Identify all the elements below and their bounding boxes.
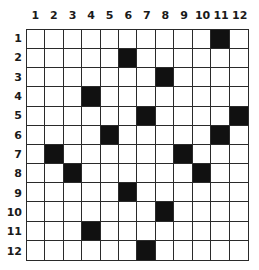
grid-cell[interactable]	[64, 202, 82, 221]
grid-cell[interactable]	[211, 68, 229, 87]
grid-cell[interactable]	[137, 222, 155, 241]
grid-cell[interactable]	[230, 164, 248, 183]
grid-cell[interactable]	[64, 241, 82, 260]
grid-cell[interactable]	[137, 49, 155, 68]
grid-cell-filled[interactable]	[156, 202, 174, 221]
grid-cell[interactable]	[82, 183, 100, 202]
grid-cell[interactable]	[101, 164, 119, 183]
grid-cell[interactable]	[64, 222, 82, 241]
grid-cell[interactable]	[174, 68, 192, 87]
grid-cell-filled[interactable]	[193, 164, 211, 183]
grid-cell-filled[interactable]	[230, 107, 248, 126]
grid-cell[interactable]	[137, 183, 155, 202]
grid-cell[interactable]	[174, 164, 192, 183]
grid-cell[interactable]	[27, 49, 45, 68]
grid-cell[interactable]	[82, 202, 100, 221]
grid-cell[interactable]	[27, 241, 45, 260]
grid-cell[interactable]	[45, 222, 63, 241]
grid-cell[interactable]	[27, 107, 45, 126]
grid-cell[interactable]	[156, 183, 174, 202]
grid-cell[interactable]	[156, 30, 174, 49]
grid-cell[interactable]	[193, 202, 211, 221]
grid-cell[interactable]	[193, 241, 211, 260]
grid-cell[interactable]	[156, 87, 174, 106]
grid-cell[interactable]	[45, 30, 63, 49]
grid-cell[interactable]	[45, 49, 63, 68]
grid-cell-filled[interactable]	[82, 222, 100, 241]
grid-cell[interactable]	[27, 202, 45, 221]
grid-cell[interactable]	[64, 107, 82, 126]
grid-cell[interactable]	[45, 107, 63, 126]
grid-cell[interactable]	[82, 145, 100, 164]
grid-cell[interactable]	[27, 30, 45, 49]
grid-cell[interactable]	[45, 164, 63, 183]
grid-cell[interactable]	[174, 126, 192, 145]
grid-cell[interactable]	[101, 241, 119, 260]
grid-cell[interactable]	[45, 68, 63, 87]
grid-cell[interactable]	[137, 87, 155, 106]
grid-cell[interactable]	[211, 222, 229, 241]
grid-cell[interactable]	[137, 145, 155, 164]
grid-cell[interactable]	[193, 49, 211, 68]
grid-cell[interactable]	[193, 126, 211, 145]
grid-cell[interactable]	[119, 30, 137, 49]
grid-cell[interactable]	[174, 87, 192, 106]
grid-cell[interactable]	[193, 87, 211, 106]
grid-cell[interactable]	[119, 241, 137, 260]
grid-cell-filled[interactable]	[211, 126, 229, 145]
grid-cell[interactable]	[230, 145, 248, 164]
grid-cell[interactable]	[230, 126, 248, 145]
grid-cell[interactable]	[119, 145, 137, 164]
grid-cell[interactable]	[211, 164, 229, 183]
grid-cell[interactable]	[230, 68, 248, 87]
grid-cell[interactable]	[230, 49, 248, 68]
grid-cell-filled[interactable]	[156, 68, 174, 87]
grid-cell[interactable]	[193, 107, 211, 126]
grid-cell[interactable]	[156, 241, 174, 260]
grid-cell[interactable]	[64, 49, 82, 68]
grid-cell[interactable]	[174, 183, 192, 202]
grid-cell[interactable]	[137, 202, 155, 221]
grid-cell-filled[interactable]	[45, 145, 63, 164]
grid-cell[interactable]	[45, 241, 63, 260]
grid-cell[interactable]	[82, 241, 100, 260]
grid-cell[interactable]	[82, 164, 100, 183]
grid-cell[interactable]	[230, 202, 248, 221]
grid-cell[interactable]	[64, 30, 82, 49]
grid-cell-filled[interactable]	[119, 183, 137, 202]
grid-cell[interactable]	[45, 87, 63, 106]
grid-cell[interactable]	[82, 30, 100, 49]
grid-cell[interactable]	[230, 30, 248, 49]
grid-cell[interactable]	[119, 164, 137, 183]
grid-cell[interactable]	[119, 87, 137, 106]
grid-cell-filled[interactable]	[64, 164, 82, 183]
grid-cell[interactable]	[174, 202, 192, 221]
grid-cell-filled[interactable]	[137, 107, 155, 126]
grid-cell[interactable]	[101, 145, 119, 164]
grid-cell[interactable]	[211, 145, 229, 164]
grid-cell[interactable]	[156, 164, 174, 183]
grid-cell[interactable]	[137, 164, 155, 183]
grid-cell-filled[interactable]	[101, 126, 119, 145]
grid-cell[interactable]	[193, 68, 211, 87]
grid-cell[interactable]	[193, 183, 211, 202]
grid-cell[interactable]	[119, 202, 137, 221]
grid-cell[interactable]	[230, 241, 248, 260]
grid-cell[interactable]	[174, 222, 192, 241]
grid-cell[interactable]	[211, 183, 229, 202]
grid-cell[interactable]	[156, 145, 174, 164]
grid-cell[interactable]	[27, 145, 45, 164]
grid-cell[interactable]	[101, 49, 119, 68]
grid-cell[interactable]	[230, 87, 248, 106]
grid-cell[interactable]	[156, 222, 174, 241]
grid-cell[interactable]	[193, 30, 211, 49]
grid-cell[interactable]	[174, 107, 192, 126]
grid-cell[interactable]	[101, 222, 119, 241]
grid-cell[interactable]	[101, 30, 119, 49]
grid-cell[interactable]	[27, 87, 45, 106]
grid-cell[interactable]	[137, 30, 155, 49]
grid-cell[interactable]	[82, 126, 100, 145]
grid-cell[interactable]	[174, 49, 192, 68]
grid-cell[interactable]	[101, 202, 119, 221]
grid-cell[interactable]	[27, 222, 45, 241]
